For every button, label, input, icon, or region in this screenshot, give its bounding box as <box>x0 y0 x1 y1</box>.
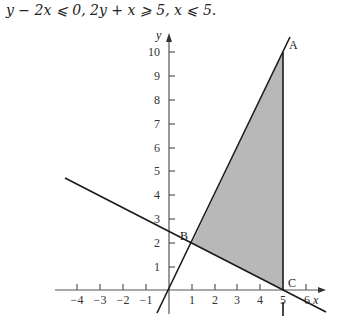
x-tick-label: 3 <box>234 293 240 307</box>
x-tick-label: 4 <box>257 293 263 307</box>
y-tick-label: 7 <box>154 117 160 131</box>
x-tick-label: −2 <box>117 293 130 307</box>
point-label-c: C <box>288 276 296 290</box>
y-tick-label: 4 <box>154 188 160 202</box>
y-tick-label: 9 <box>154 69 160 83</box>
y-tick-label: 5 <box>154 164 160 178</box>
x-tick-label: −3 <box>94 293 107 307</box>
y-axis-label: y <box>155 28 162 42</box>
y-tick-label: 8 <box>154 93 160 107</box>
line-2y-plus-x-equals-5 <box>65 178 326 312</box>
y-tick-label: 10 <box>148 45 160 59</box>
x-tick-label: −1 <box>140 293 153 307</box>
x-tick-label: 6 <box>304 293 310 307</box>
point-label-b: B <box>180 229 188 243</box>
feasible-region-graph: −4 −3 −2 −1 1 2 3 4 5 6 1 2 3 4 5 6 7 8 … <box>0 0 349 329</box>
y-axis <box>169 40 175 314</box>
y-tick-label: 6 <box>154 141 160 155</box>
y-tick-label: 2 <box>154 236 160 250</box>
x-axis-arrow-icon <box>318 287 326 293</box>
point-label-a: A <box>289 38 298 52</box>
y-tick-label: 1 <box>154 260 160 274</box>
feasible-region <box>192 52 283 290</box>
y-axis-arrow-icon <box>166 33 172 42</box>
x-tick-label: 2 <box>212 293 218 307</box>
x-tick-label: −4 <box>71 293 84 307</box>
x-tick-label: 1 <box>189 293 195 307</box>
